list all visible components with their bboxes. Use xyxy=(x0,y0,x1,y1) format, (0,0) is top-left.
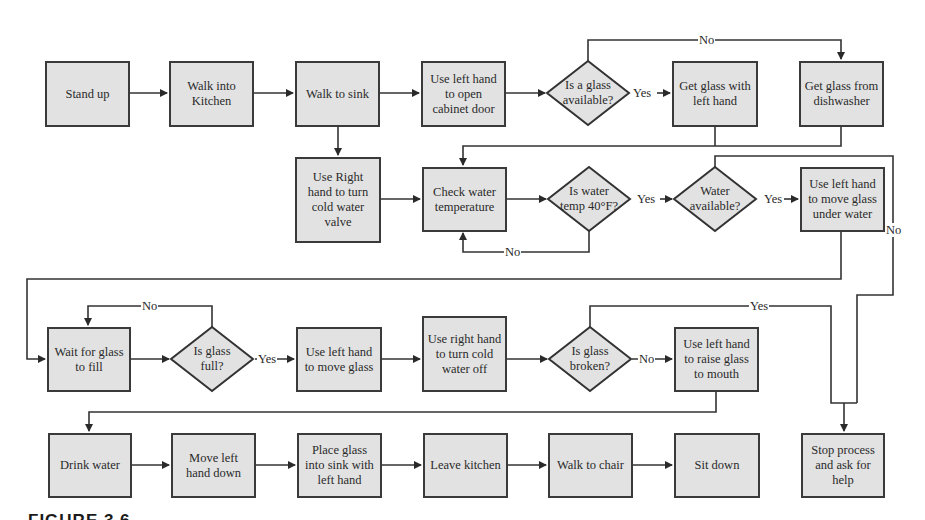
node-label: Walk to sink xyxy=(306,87,369,102)
edge-label-glass-no: No xyxy=(698,33,715,47)
edge-label-water-no: No xyxy=(885,223,902,237)
node-turn-valve: Use Right hand to turn cold water valve xyxy=(295,157,381,243)
node-walk-chair: Walk to chair xyxy=(548,433,633,498)
node-label: Use right hand to turn cold water off xyxy=(427,332,502,377)
node-drink: Drink water xyxy=(48,433,132,498)
node-label: Stop process and ask for help xyxy=(806,443,880,488)
node-move-under-water: Use left hand to move glass under water xyxy=(800,167,885,232)
edge-label-temp-no: No xyxy=(504,245,521,259)
node-label: Use left hand to raise glass to mouth xyxy=(679,337,754,382)
edge-label-full-yes: Yes xyxy=(257,352,277,366)
node-place-sink: Place glass into sink with left hand xyxy=(297,433,382,498)
node-walk-kitchen: Walk into Kitchen xyxy=(169,61,254,127)
edge-label-temp-yes: Yes xyxy=(636,192,656,206)
node-label: Stand up xyxy=(65,87,109,102)
edge-label-water-yes: Yes xyxy=(763,192,783,206)
edge-label-broken-no: No xyxy=(638,352,655,366)
edge-label-broken-yes: Yes xyxy=(749,299,769,313)
node-label: Use left hand to move glass xyxy=(301,345,377,375)
decision-water-label: Water available? xyxy=(682,181,748,217)
node-label: Get glass with left hand xyxy=(677,79,753,109)
decision-full-label: Is glass full? xyxy=(181,341,243,377)
node-label: Move left hand down xyxy=(176,451,251,481)
node-get-glass-left: Get glass with left hand xyxy=(672,61,758,127)
decision-broken-label: Is glass broken? xyxy=(559,341,621,377)
node-label: Walk to chair xyxy=(557,458,624,473)
node-get-glass-dishwasher: Get glass from dishwasher xyxy=(799,61,884,127)
decision-glass-available-label: Is a glass available? xyxy=(553,75,623,111)
node-label: Walk into Kitchen xyxy=(174,79,249,109)
node-label: Use left hand to move glass under water xyxy=(805,177,880,222)
node-open-cabinet: Use left hand to open cabinet door xyxy=(421,61,506,127)
node-label: Leave kitchen xyxy=(430,458,500,473)
node-turn-off: Use right hand to turn cold water off xyxy=(422,316,507,392)
edge-label-full-no: No xyxy=(141,299,158,313)
figure-caption: FIGURE 3.6 xyxy=(28,511,131,520)
node-sit-down: Sit down xyxy=(674,433,760,498)
node-label: Sit down xyxy=(695,458,740,473)
node-stop-help: Stop process and ask for help xyxy=(801,433,885,498)
edge-label-glass-yes: Yes xyxy=(632,86,652,100)
node-move-glass: Use left hand to move glass xyxy=(296,327,382,392)
node-leave-kitchen: Leave kitchen xyxy=(423,433,508,498)
node-label: Get glass from dishwasher xyxy=(804,79,879,109)
node-label: Place glass into sink with left hand xyxy=(302,443,377,488)
node-raise-glass: Use left hand to raise glass to mouth xyxy=(674,327,759,392)
node-check-temp: Check water temperature xyxy=(422,167,507,232)
node-walk-sink: Walk to sink xyxy=(295,61,380,127)
node-stand-up: Stand up xyxy=(45,61,130,127)
node-label: Use Right hand to turn cold water valve xyxy=(300,170,376,230)
node-wait-fill: Wait for glass to fill xyxy=(47,327,131,392)
node-label: Wait for glass to fill xyxy=(52,345,126,375)
node-label: Use left hand to open cabinet door xyxy=(426,72,501,117)
node-hand-down: Move left hand down xyxy=(171,433,256,498)
node-label: Check water temperature xyxy=(427,185,502,215)
node-label: Drink water xyxy=(60,458,120,473)
decision-temp-label: Is water temp 40°F? xyxy=(556,181,622,217)
